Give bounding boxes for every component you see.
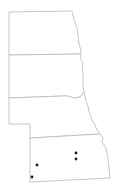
state-north-dakota [9,11,81,55]
map [0,0,123,192]
map-marker-dot [75,158,78,161]
state-nebraska [9,92,100,138]
state-kansas [30,134,110,182]
map-marker-dot [31,176,34,179]
map-marker-dot [75,152,78,155]
map-marker-dot [36,164,39,167]
state-south-dakota [9,54,84,98]
